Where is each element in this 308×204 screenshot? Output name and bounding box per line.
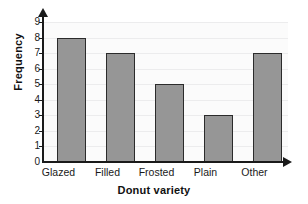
y-tick-mark [39, 22, 43, 23]
y-tick-label-0: 0 [26, 157, 40, 167]
y-tick-label-4: 4 [26, 95, 40, 105]
y-tick-label-2: 2 [26, 126, 40, 136]
bar-plain [204, 115, 233, 162]
y-tick-label-7: 7 [26, 48, 40, 58]
y-axis-title: Frequency [12, 0, 24, 132]
x-category-label-frosted: Frosted [135, 166, 178, 178]
y-tick-mark [39, 115, 43, 116]
x-category-label-glazed: Glazed [37, 166, 80, 178]
y-tick-label-1: 1 [26, 141, 40, 151]
y-tick-mark [39, 69, 43, 70]
plot-area [43, 22, 288, 162]
x-category-label-other: Other [233, 166, 276, 178]
y-tick-mark [39, 38, 43, 39]
y-tick-label-3: 3 [26, 110, 40, 120]
bar-frosted [155, 84, 184, 162]
x-axis-arrow-icon [283, 157, 292, 167]
bar-glazed [57, 38, 86, 162]
y-tick-label-9: 9 [26, 17, 40, 27]
y-tick-label-6: 6 [26, 64, 40, 74]
y-tick-mark [39, 131, 43, 132]
x-category-label-filled: Filled [86, 166, 129, 178]
y-tick-label-5: 5 [26, 79, 40, 89]
x-axis-title: Donut variety [0, 184, 308, 196]
x-category-label-plain: Plain [184, 166, 227, 178]
x-axis-line [42, 161, 284, 163]
y-tick-mark [39, 146, 43, 147]
y-tick-label-8: 8 [26, 33, 40, 43]
gridline [43, 22, 288, 23]
y-tick-mark [39, 84, 43, 85]
bar-chart: 9 8 7 6 5 4 3 2 1 0 Glazed Filled Froste… [0, 0, 308, 204]
y-tick-mark [39, 53, 43, 54]
bar-filled [106, 53, 135, 162]
bar-other [253, 53, 282, 162]
y-tick-mark [39, 100, 43, 101]
